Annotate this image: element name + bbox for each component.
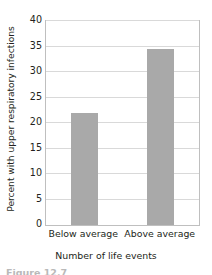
gridline xyxy=(46,199,199,200)
y-axis-tick-labels: 0510152025303540 xyxy=(18,14,42,226)
gridline xyxy=(46,97,199,98)
y-tick-label: 20 xyxy=(18,117,42,127)
x-tick-label: Below average xyxy=(48,228,118,239)
figure-caption: Figure 12.7 xyxy=(6,267,206,275)
bar-below-average xyxy=(71,113,98,225)
y-tick-label: 5 xyxy=(18,194,42,204)
x-tick-label: Above average xyxy=(124,228,195,239)
bar-chart-figure: Percent with upper respiratory infection… xyxy=(0,0,212,275)
bar-above-average xyxy=(147,49,174,225)
y-tick-label: 10 xyxy=(18,168,42,178)
x-axis-tick-labels: Below averageAbove average xyxy=(45,228,200,242)
y-tick-label: 35 xyxy=(18,41,42,51)
gridline xyxy=(46,173,199,174)
x-axis-title: Number of life events xyxy=(0,250,212,261)
y-tick-label: 15 xyxy=(18,143,42,153)
y-tick-label: 0 xyxy=(18,219,42,229)
gridline xyxy=(46,46,199,47)
y-tick-label: 40 xyxy=(18,15,42,25)
y-axis-title: Percent with upper respiratory infection… xyxy=(5,14,19,224)
y-tick-label: 25 xyxy=(18,92,42,102)
gridline xyxy=(46,122,199,123)
y-tick-label: 30 xyxy=(18,66,42,76)
plot-area xyxy=(45,20,200,226)
gridline xyxy=(46,71,199,72)
gridline xyxy=(46,20,199,21)
gridline xyxy=(46,148,199,149)
